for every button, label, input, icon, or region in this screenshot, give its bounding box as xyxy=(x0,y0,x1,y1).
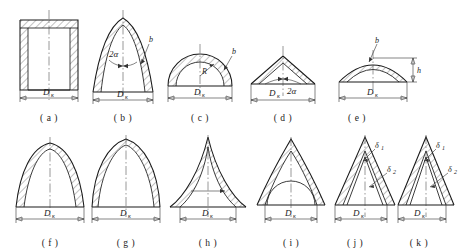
caption-k: ( k ) xyxy=(382,238,456,248)
caption-j: ( j ) xyxy=(319,238,391,248)
label-diameter-sub-i: к xyxy=(293,213,296,219)
label-diameter-i: D xyxy=(284,208,292,218)
label-diameter-c: D xyxy=(193,87,201,97)
label-diameter-sub-a: к xyxy=(51,92,54,98)
label-diameter-g: D xyxy=(119,208,127,218)
figure-panel-c: R b D к ( c ) xyxy=(152,0,248,125)
label-diameter-b: D xyxy=(116,89,124,99)
label-diameter-sub-g: к xyxy=(128,213,131,219)
figure-row-bottom: D к ( f ) xyxy=(0,125,464,250)
caption-c: ( c ) xyxy=(152,113,248,123)
label-diameter-sub-c: к xyxy=(202,92,205,98)
label-thickness-delta2-k: δ xyxy=(448,165,452,174)
figure-panel-e-drawing: b h D к xyxy=(325,0,433,125)
label-height-e: h xyxy=(417,66,421,75)
label-thickness-delta2-sub-k: 2 xyxy=(454,169,457,175)
label-diameter-d: D xyxy=(268,88,276,98)
label-diameter-f: D xyxy=(43,208,51,218)
label-diameter-sub-h: к xyxy=(210,213,213,219)
label-diameter-k: D xyxy=(413,208,421,218)
label-diameter-j: D xyxy=(352,208,360,218)
figure-panel-d-drawing: 2α D к xyxy=(235,0,331,125)
label-radius-c: R xyxy=(201,67,207,76)
figure-panel-e: b h D к ( e ) xyxy=(325,0,433,125)
figure-panel-c-drawing: R b D к xyxy=(152,0,248,125)
label-diameter-sub-d: к xyxy=(277,93,280,99)
label-half-angle-b: 2α xyxy=(109,49,119,59)
label-thickness-delta1-k: δ xyxy=(436,141,440,150)
label-thickness-delta1-j: δ xyxy=(375,141,379,150)
label-diameter-sub-e: к xyxy=(375,92,378,98)
caption-e: ( e ) xyxy=(303,113,411,123)
label-half-angle-d: 2α xyxy=(287,86,297,96)
label-diameter-sub-b: к xyxy=(125,94,128,100)
figure-row-top: D к ( a ) xyxy=(0,0,464,125)
label-diameter-sub-j: к xyxy=(361,213,364,219)
label-diameter-h: D xyxy=(201,208,209,218)
figure-panel-k-drawing: δ 1 δ 2 D к xyxy=(390,125,464,250)
label-thickness-delta1-sub-k: 1 xyxy=(442,145,445,151)
figure-sheet: D к ( a ) xyxy=(0,0,464,250)
label-diameter-sub-f: к xyxy=(52,213,55,219)
label-thickness-e: b xyxy=(375,36,379,45)
label-thickness-delta1-sub-j: 1 xyxy=(381,145,384,151)
figure-panel-d: 2α D к ( d ) xyxy=(235,0,331,125)
label-diameter-sub-k: к xyxy=(422,213,425,219)
label-diameter-a: D xyxy=(42,87,50,97)
figure-panel-k: δ 1 δ 2 D к ( k ) xyxy=(390,125,464,250)
label-diameter-e: D xyxy=(366,87,374,97)
